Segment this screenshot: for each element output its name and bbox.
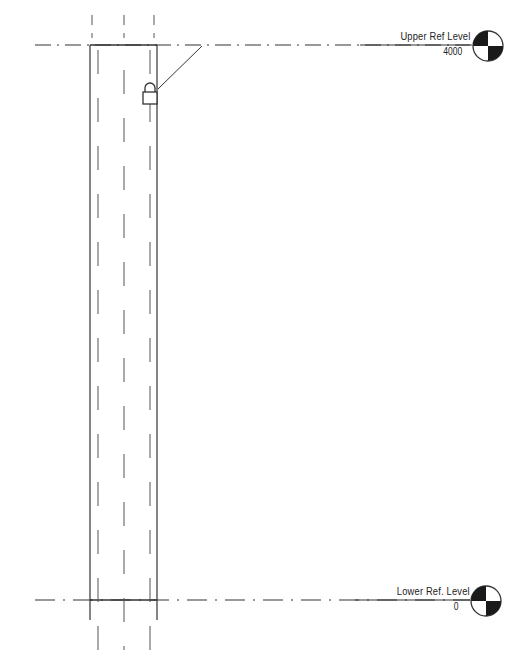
- elevation-view-canvas[interactable]: [0, 0, 530, 666]
- upper-level-elevation[interactable]: 4000: [443, 46, 462, 57]
- column-element[interactable]: [90, 15, 157, 650]
- lower-level-name[interactable]: Lower Ref. Level: [397, 585, 470, 597]
- upper-level-name[interactable]: Upper Ref Level: [400, 30, 470, 42]
- level-head-target-icon: [473, 31, 503, 61]
- lower-level-elevation[interactable]: 0: [454, 601, 459, 612]
- padlock-icon[interactable]: [143, 83, 157, 104]
- lock-leader-line: [158, 46, 202, 89]
- level-head-target-icon: [471, 586, 501, 616]
